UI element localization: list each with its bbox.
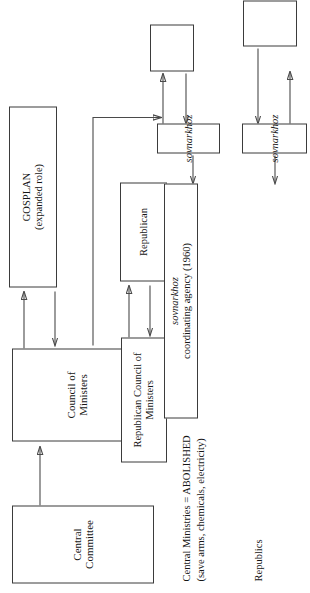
node-sovnarkhoz-2[interactable]: sovnarkhoz — [242, 123, 307, 153]
note-central-ministries-abolished: Central Ministries = ABOLISHED (save arm… — [180, 435, 208, 581]
node-central-committee-label: Central Committee — [71, 506, 96, 582]
node-republican-council-of-ministers-label: Republican Council of Ministers — [132, 338, 156, 461]
node-central-committee[interactable]: Central Committee — [12, 505, 154, 583]
node-gosplan[interactable]: GOSPLAN (expanded role) — [9, 106, 57, 287]
node-republican-label: Republican — [138, 206, 150, 258]
node-coordagency-label-ital: sovnarkhoz — [169, 240, 181, 360]
node-sovnarkhoz-coordinating-agency[interactable]: sovnarkhoz coordinating agency (1960) — [164, 183, 198, 418]
node-republican-council-of-ministers[interactable]: Republican Council of Ministers — [121, 337, 167, 462]
node-gosplan-label-rest: (expanded role) — [33, 161, 45, 231]
note-line-2: (save arms, chemicals, electricity) — [194, 435, 208, 581]
note-line-1: Central Ministries = ABOLISHED — [180, 435, 194, 581]
diagram-canvas: Central Committee Council of Ministers G… — [0, 0, 310, 593]
node-gosplan-label-caps: GOSPLAN — [21, 161, 33, 231]
node-sovnarkhoz-2-label: sovnarkhoz — [269, 112, 281, 164]
node-sovnarkhoz-1[interactable]: sovnarkhoz — [157, 123, 220, 153]
node-enterprise-1[interactable] — [150, 24, 194, 71]
node-council-of-ministers-label: Council of Ministers — [65, 349, 90, 440]
row-label-republics: Republics — [253, 539, 264, 581]
node-republican[interactable]: Republican — [120, 182, 167, 281]
connector-layer — [0, 0, 310, 593]
node-sovnarkhoz-1-label: sovnarkhoz — [183, 112, 195, 164]
node-coordagency-label-rest: coordinating agency (1960) — [181, 240, 193, 360]
node-enterprise-2[interactable] — [243, 0, 297, 46]
